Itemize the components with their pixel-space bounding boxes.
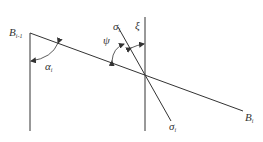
label-b-prev-sub: i-1 <box>16 33 23 39</box>
alpha-arc <box>31 43 58 61</box>
label-psi-base: ψ <box>103 34 110 46</box>
label-xi-base: ξ <box>135 19 140 31</box>
label-b-prev: Bi-1 <box>9 27 22 39</box>
label-xi: ξ <box>135 20 140 31</box>
label-b-curr: Bi <box>245 112 253 124</box>
label-b-curr-base: B <box>245 111 252 123</box>
xi-arc <box>131 44 144 48</box>
b-line <box>30 33 243 111</box>
label-psi: ψ <box>103 35 110 46</box>
geometry-diagram: Bi-1 αi ψ σi ξ σi Bi <box>0 0 263 142</box>
label-sigma-bottom-sub: i <box>174 127 176 133</box>
label-sigma-top-sub: i <box>118 27 120 33</box>
diagram-lines <box>0 0 263 142</box>
psi-arc <box>112 44 124 61</box>
label-b-prev-base: B <box>9 26 16 38</box>
label-sigma-bottom: σi <box>169 121 176 133</box>
label-sigma-top: σi <box>113 21 120 33</box>
label-b-curr-sub: i <box>252 118 254 124</box>
label-alpha-sub: i <box>51 67 53 73</box>
label-alpha: αi <box>45 61 52 73</box>
